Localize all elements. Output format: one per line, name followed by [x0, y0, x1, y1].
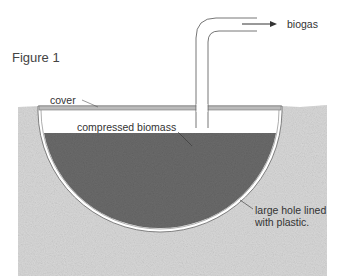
biogas-arrow-icon [242, 21, 277, 27]
biogas-label: biogas [287, 18, 318, 30]
hole-label-line1: large hole lined [255, 204, 326, 216]
figure-title: Figure 1 [12, 50, 60, 65]
cover [39, 106, 281, 110]
biogas-digester-diagram [0, 0, 341, 276]
compressed-biomass-label: compressed biomass [77, 121, 176, 133]
cover-label: cover [50, 94, 76, 106]
hole-label-line2: with plastic. [255, 216, 309, 228]
